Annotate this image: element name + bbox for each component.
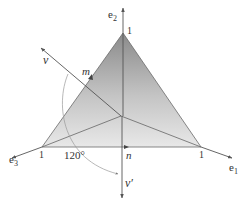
e3-axis-label: e3: [9, 153, 18, 168]
e3-tick-label: 1: [39, 149, 44, 160]
e1-tick-label: 1: [199, 149, 204, 160]
simplex-triangle: [42, 33, 201, 147]
simplex-diagram: e2 1 e3 1 e1 1 v m n v′ 120°: [0, 0, 250, 207]
e1-axis-label: e1: [229, 161, 238, 176]
e1-axis: [201, 147, 232, 158]
e2-tick-label: 1: [127, 25, 132, 36]
e2-axis-label: e2: [108, 8, 117, 23]
v-prime-label: v′: [125, 176, 133, 190]
v-label: v: [43, 53, 49, 67]
e3-axis: [12, 147, 42, 158]
angle-label: 120°: [64, 149, 85, 161]
n-label: n: [126, 149, 132, 161]
m-label: m: [82, 65, 90, 77]
